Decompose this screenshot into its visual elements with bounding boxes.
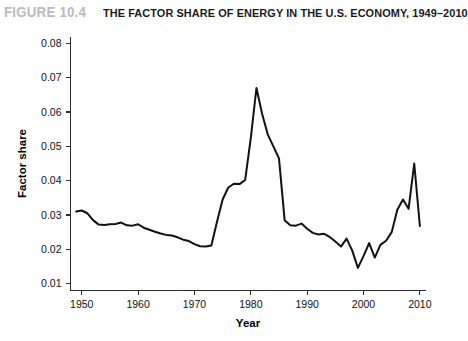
y-tick-label: 0.04 bbox=[41, 174, 62, 186]
x-tick-label: 2010 bbox=[408, 298, 432, 310]
y-tick-label: 0.03 bbox=[41, 209, 62, 221]
figure-number-label: FIGURE 10.4 bbox=[4, 4, 86, 20]
y-tick-label: 0.07 bbox=[41, 71, 62, 83]
y-tick-label: 0.02 bbox=[41, 243, 62, 255]
x-tick-label: 1970 bbox=[183, 298, 207, 310]
y-tick-label: 0.06 bbox=[41, 106, 62, 118]
x-axis-group: 1950196019701980199020002010 bbox=[70, 291, 432, 310]
x-tick-label: 1980 bbox=[239, 298, 263, 310]
y-tick-group: 0.010.020.030.040.050.060.070.08 bbox=[41, 37, 70, 289]
y-tick-label: 0.01 bbox=[41, 277, 62, 289]
x-tick-label: 1950 bbox=[70, 298, 94, 310]
data-series-line bbox=[76, 88, 420, 268]
x-tick-label: 2000 bbox=[352, 298, 376, 310]
x-tick-group: 1950196019701980199020002010 bbox=[70, 291, 432, 310]
figure-title-text: THE FACTOR SHARE OF ENERGY IN THE U.S. E… bbox=[103, 6, 468, 19]
y-axis-title: Factor share bbox=[16, 129, 28, 198]
y-axis-group: 0.010.020.030.040.050.060.070.08 bbox=[41, 37, 70, 291]
y-tick-label: 0.05 bbox=[41, 140, 62, 152]
chart-plot: 0.010.020.030.040.050.060.070.08 1950196… bbox=[0, 20, 443, 341]
x-tick-label: 1960 bbox=[126, 298, 150, 310]
x-axis-title: Year bbox=[236, 317, 261, 329]
y-tick-label: 0.08 bbox=[41, 37, 62, 49]
x-tick-label: 1990 bbox=[295, 298, 319, 310]
